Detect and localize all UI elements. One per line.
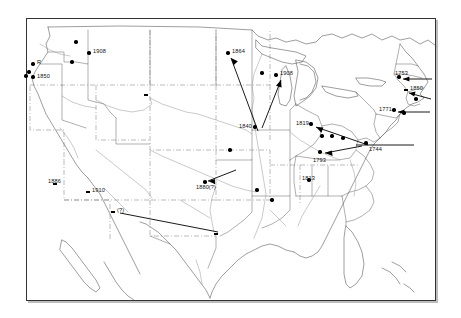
map-marker-m-wa-north — [74, 40, 77, 43]
map-marker-m-or-a — [27, 70, 30, 73]
map-marker-m-in-a — [320, 134, 323, 137]
map-label-L-1850-ct: 1850 — [410, 86, 423, 92]
map-marker-m-ne — [228, 148, 231, 151]
map-marker-m-nj — [402, 111, 405, 114]
map-marker-m-or-1850 — [31, 75, 34, 78]
map-marker-m-ia-1840 — [253, 125, 256, 128]
map-label-L-1771: 1771 — [379, 107, 392, 113]
arrows-group — [120, 58, 432, 232]
map-marker-m-ar — [270, 198, 273, 201]
map-marker-m-wa-east — [70, 60, 73, 63]
map-label-L-tx-q: (?) — [117, 208, 124, 214]
map-figure: 1908R18501864190818401819179317441771175… — [0, 0, 461, 318]
map-marker-m-il-1819 — [309, 122, 312, 125]
map-label-L-1840: 1840 — [239, 124, 252, 130]
map-marker-m-mn-1864 — [226, 51, 229, 54]
map-marker-m-or-r — [31, 62, 34, 65]
map-marker-m-ky-1793 — [318, 150, 321, 153]
map-label-L-1819: 1819 — [296, 121, 309, 127]
map-label-L-1880: 1880(?) — [196, 185, 216, 191]
map-label-L-1864: 1864 — [232, 49, 245, 55]
map-label-L-1908-mi: 1908 — [280, 71, 293, 77]
map-marker-m-ma — [414, 97, 417, 100]
map-label-L-1813: 1813 — [302, 176, 315, 182]
map-label-L-R: R — [37, 60, 41, 66]
map-marker-m-tx-q — [111, 211, 115, 214]
map-marker-m-tx-gulf — [214, 233, 218, 236]
map-marker-m-mi-1908 — [274, 73, 277, 76]
map-marker-m-wi — [260, 71, 263, 74]
rivers-group — [40, 44, 356, 284]
arrow-1840-to-1864 — [231, 58, 258, 131]
map-vector-layer — [0, 0, 461, 318]
map-label-L-1793: 1793 — [313, 158, 326, 164]
map-label-L-1886: 1886 — [48, 179, 61, 185]
arrow-1908-to-1840 — [262, 80, 281, 128]
state-boundaries-solid-group — [40, 30, 424, 268]
map-marker-m-mo — [255, 188, 258, 191]
map-marker-m-mt-wy — [144, 94, 148, 97]
map-marker-m-or-b — [24, 74, 27, 77]
map-label-L-1753: 1753 — [395, 71, 408, 77]
map-marker-m-ct-1850 — [404, 89, 408, 92]
map-marker-m-id-1908 — [87, 51, 90, 54]
map-label-L-1850-or: 1850 — [37, 74, 50, 80]
arrow-tx-gulf — [120, 213, 218, 232]
map-label-L-1744: 1744 — [369, 147, 382, 153]
map-marker-m-va-1744 — [364, 141, 367, 144]
arrow-1880-ne — [208, 170, 236, 181]
map-marker-m-oh-b — [341, 136, 344, 139]
map-marker-m-oh-a — [330, 134, 333, 137]
map-label-L-1908-id: 1908 — [93, 49, 106, 55]
map-marker-m-az-1910 — [86, 191, 90, 194]
state-boundaries-dashed-group — [30, 30, 360, 240]
map-marker-m-pa-1771 — [392, 108, 395, 111]
map-label-L-1910: 1910 — [92, 188, 105, 194]
map-canvas — [0, 0, 461, 318]
